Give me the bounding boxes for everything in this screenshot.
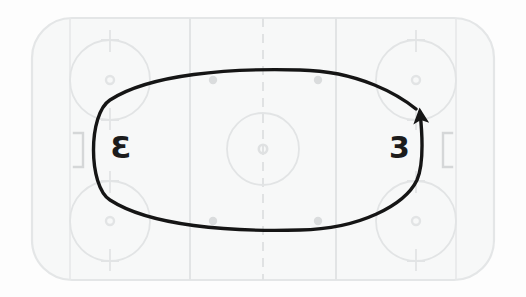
goalie-right-marker: 3 (389, 133, 410, 163)
goalie-left-marker: 3 (110, 133, 131, 163)
rink-svg (0, 0, 526, 297)
neutral-dot-top-right (314, 76, 322, 84)
neutral-dot-bottom-right (314, 217, 322, 225)
neutral-dot-bottom-left (209, 217, 217, 225)
rink-diagram-canvas: 3 3 (0, 0, 526, 297)
neutral-dot-top-left (209, 76, 217, 84)
